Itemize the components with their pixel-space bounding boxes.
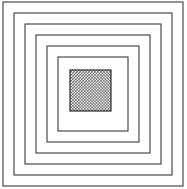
- nested-squares-figure: [0, 0, 187, 189]
- figure-canvas: [0, 0, 187, 189]
- hatched-center-square: [70, 70, 111, 111]
